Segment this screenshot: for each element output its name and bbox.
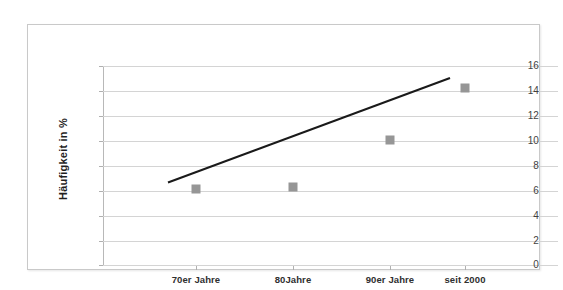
y-tick-mark-0 <box>99 265 103 266</box>
y-axis-title-label: Häufigkeit in % <box>57 118 69 200</box>
chart-frame: Häufigkeit in % 16 14 12 10 8 <box>27 24 540 270</box>
y-tick-mark-6 <box>99 191 103 192</box>
y-tick-label-14: 14 <box>477 86 539 96</box>
y-tick-mark-4 <box>99 216 103 217</box>
x-tick-label-80jahre: 80Jahre <box>243 274 343 285</box>
data-point-90er-jahre <box>386 135 395 144</box>
x-tick-mark-80jahre <box>293 266 294 270</box>
y-tick-mark-10 <box>99 141 103 142</box>
y-tick-label-8: 8 <box>477 161 539 171</box>
x-tick-mark-70er-jahre <box>196 266 197 270</box>
y-tick-mark-12 <box>99 116 103 117</box>
chart-container: Häufigkeit in % 16 14 12 10 8 <box>0 0 563 290</box>
y-tick-mark-14 <box>99 91 103 92</box>
y-axis-title: Häufigkeit in % <box>56 99 70 219</box>
y-tick-label-16: 16 <box>477 61 539 71</box>
y-tick-label-0: 0 <box>477 260 539 270</box>
y-tick-label-2: 2 <box>477 236 539 246</box>
x-tick-mark-seit-2000 <box>465 266 466 270</box>
x-tick-mark-90er-jahre <box>390 266 391 270</box>
y-tick-label-4: 4 <box>477 211 539 221</box>
y-tick-mark-8 <box>99 166 103 167</box>
y-tick-label-10: 10 <box>477 136 539 146</box>
y-tick-mark-16 <box>99 66 103 67</box>
y-tick-label-12: 12 <box>477 111 539 121</box>
data-point-seit-2000 <box>461 84 470 93</box>
x-tick-label-70er-jahre: 70er Jahre <box>146 274 246 285</box>
data-point-70er-jahre <box>192 184 201 193</box>
x-tick-label-seit-2000: seit 2000 <box>415 274 515 285</box>
y-tick-label-6: 6 <box>477 186 539 196</box>
data-point-80jahre <box>289 183 298 192</box>
y-tick-mark-2 <box>99 241 103 242</box>
